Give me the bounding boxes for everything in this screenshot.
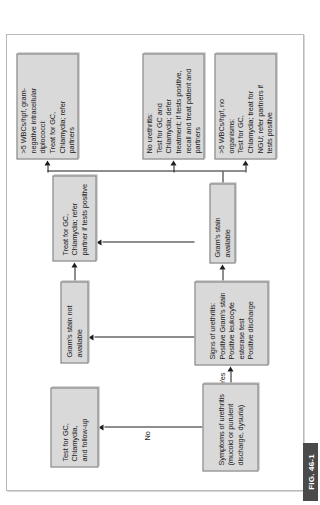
node-wbc-gram-negative-diplococci: >5 WBCs/hpf, gram- negative intracellula… [16, 53, 78, 159]
flowchart-canvas: Yes No [6, 34, 302, 489]
node-treat-gc-chlamydia-refer-partner: Treat for GC, Chlamydia; refer partner i… [52, 175, 96, 261]
arrowhead-signs-to-treat-refer [96, 239, 101, 245]
arrowhead-spine-to-wbc-no-organisms [242, 160, 248, 165]
connector-symptoms-to-signs [230, 371, 231, 383]
arrowhead-signs-to-stain-available [219, 264, 225, 269]
arrowhead-signs-to-stain-unavailable [88, 334, 93, 340]
arrowhead-symptoms-to-signs [227, 366, 233, 371]
connector-signs-to-stain-available [222, 269, 223, 281]
connector-spine-to-wbc-no-organisms [245, 165, 246, 172]
connector-spine-to-wbc-diplococci [47, 165, 48, 172]
connector-signs-to-treat-refer [102, 241, 194, 242]
node-symptoms-of-urethritis: Symptoms of urethritis (mucoid or purule… [202, 383, 258, 471]
figure-caption-text: FIG. 46-1 [306, 454, 315, 490]
arrowhead-spine-to-no-urethritis [170, 160, 176, 165]
connector-stain-available-to-spine [222, 171, 223, 183]
node-no-urethritis: No urethritis: Test for GC and Chlamydia… [142, 53, 204, 159]
arrowhead-stain-unavailable-to-treat [71, 262, 77, 267]
connector-spine-to-no-urethritis [173, 165, 174, 172]
branch-spine [47, 170, 245, 171]
figure-page: Yes No [0, 0, 320, 505]
arrowhead-spine-to-wbc-diplococci [44, 160, 50, 165]
node-wbc-no-organisms: >5 WBCs/hpf, no organisms: Test for GC, … [214, 53, 276, 159]
connector-signs-to-stain-unavailable [94, 336, 194, 337]
connector-symptoms-to-followup [104, 426, 202, 427]
node-grams-stain-available: Gram's stain available [209, 183, 235, 263]
connector-stain-unavailable-to-treat [74, 267, 75, 281]
edge-label-no: No [142, 430, 151, 441]
node-signs-of-urethritis: Signs of urethritis: Positive Gram's sta… [194, 281, 268, 365]
node-grams-stain-not-available: Gram's stain not available [60, 281, 88, 363]
flowchart-canvas-wrap: Yes No [6, 34, 302, 489]
arrowhead-symptoms-to-followup [98, 424, 103, 430]
figure-caption-tab: FIG. 46-1 [303, 443, 318, 501]
node-test-gc-chlamydia-followup: Test for GC, Chlamydia, and follow-up [50, 387, 98, 467]
